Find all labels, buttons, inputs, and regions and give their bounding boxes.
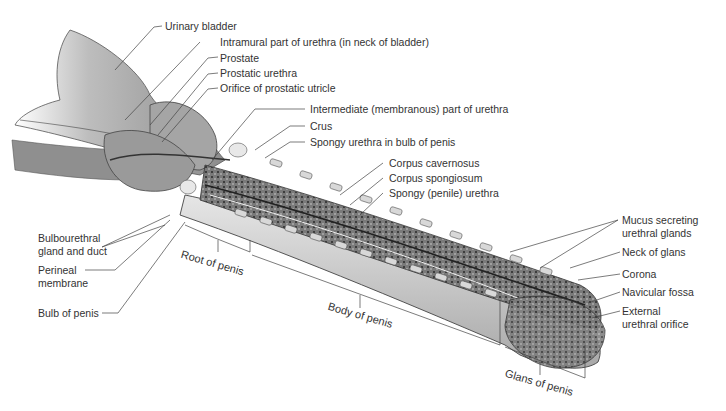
label-prostate: Prostate — [220, 52, 259, 65]
label-intermediate-urethra: Intermediate (membranous) part of urethr… — [310, 103, 508, 116]
label-corpus-cavernosus: Corpus cavernosus — [389, 157, 479, 170]
bulbourethral-gland-shape — [180, 180, 196, 194]
label-spongy-penile-urethra: Spongy (penile) urethra — [389, 187, 499, 200]
label-bulbourethral: Bulbourethral gland and duct — [38, 232, 107, 257]
label-neck-of-glans: Neck of glans — [622, 246, 686, 259]
label-external-orifice-line1: External — [622, 305, 689, 318]
label-external-orifice: External urethral orifice — [622, 305, 689, 330]
label-perineal-line2: membrane — [38, 277, 88, 290]
label-corpus-spongiosum: Corpus spongiosum — [389, 172, 482, 185]
label-bulb-of-penis: Bulb of penis — [38, 307, 99, 320]
crus-gland-shape — [229, 143, 247, 157]
label-bulbourethral-line2: gland and duct — [38, 245, 107, 258]
label-mucus-glands-line1: Mucus secreting — [622, 214, 698, 227]
label-perineal-membrane: Perineal membrane — [38, 264, 88, 289]
label-spongy-urethra-bulb: Spongy urethra in bulb of penis — [310, 136, 455, 149]
label-external-orifice-line2: urethral orifice — [622, 318, 689, 331]
label-crus: Crus — [310, 120, 332, 133]
anatomy-illustration — [0, 0, 726, 411]
label-perineal-line1: Perineal — [38, 264, 88, 277]
label-bulbourethral-line1: Bulbourethral — [38, 232, 107, 245]
label-urinary-bladder: Urinary bladder — [165, 20, 237, 33]
label-intramural-urethra: Intramural part of urethra (in neck of b… — [220, 36, 429, 49]
label-corona: Corona — [622, 268, 656, 281]
label-mucus-glands-line2: urethral glands — [622, 227, 698, 240]
label-mucus-glands: Mucus secreting urethral glands — [622, 214, 698, 239]
label-navicular-fossa: Navicular fossa — [622, 286, 694, 299]
label-prostatic-urethra: Prostatic urethra — [220, 67, 297, 80]
label-orifice-prostatic-utricle: Orifice of prostatic utricle — [220, 82, 336, 95]
